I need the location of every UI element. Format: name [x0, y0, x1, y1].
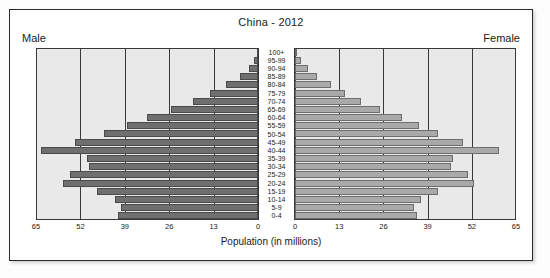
bar-female-100+: [295, 49, 297, 56]
bar-female-35-39: [295, 155, 453, 162]
bar-female-15-19: [295, 188, 438, 195]
bar-male-45-49: [75, 139, 258, 146]
age-label-100+: 100+: [259, 49, 294, 56]
chart-card: China - 2012 Male Female 100+95-9990-948…: [9, 9, 533, 261]
age-label-25-29: 25-29: [259, 171, 294, 178]
bar-female-50-54: [295, 130, 438, 137]
bar-male-10-14: [115, 196, 258, 203]
age-label-5-9: 5-9: [259, 204, 294, 211]
age-label-15-19: 15-19: [259, 188, 294, 195]
xtick-female-65: 65: [512, 222, 520, 231]
bar-male-70-74: [193, 98, 258, 105]
bar-female-95-99: [295, 57, 301, 64]
bar-male-50-54: [104, 130, 258, 137]
xtick-male-52: 52: [76, 222, 84, 231]
age-label-90-94: 90-94: [259, 65, 294, 72]
bar-female-45-49: [295, 139, 463, 146]
bar-male-90-94: [249, 65, 258, 72]
bar-female-90-94: [295, 65, 308, 72]
age-label-45-49: 45-49: [259, 139, 294, 146]
bar-male-35-39: [87, 155, 258, 162]
bar-female-30-34: [295, 163, 451, 170]
age-group-axis: 100+95-9990-9485-8980-8475-7970-7465-696…: [258, 48, 295, 220]
xtick-female-39: 39: [423, 222, 431, 231]
chart-title: China - 2012: [10, 16, 532, 28]
bar-female-85-89: [295, 73, 317, 80]
chart-page: China - 2012 Male Female 100+95-9990-948…: [0, 0, 550, 278]
age-label-55-59: 55-59: [259, 122, 294, 129]
bar-female-20-24: [295, 180, 474, 187]
xtick-male-26: 26: [165, 222, 173, 231]
age-label-65-69: 65-69: [259, 106, 294, 113]
bar-male-80-84: [226, 81, 258, 88]
xtick-male-65: 65: [32, 222, 40, 231]
plot-area: 100+95-9990-9485-8980-8475-7970-7465-696…: [36, 48, 516, 220]
age-label-35-39: 35-39: [259, 155, 294, 162]
age-label-30-34: 30-34: [259, 163, 294, 170]
age-label-10-14: 10-14: [259, 196, 294, 203]
age-label-50-54: 50-54: [259, 131, 294, 138]
xtick-male-13: 13: [209, 222, 217, 231]
bar-female-5-9: [295, 204, 414, 211]
bar-male-5-9: [121, 204, 258, 211]
xtick-female-26: 26: [379, 222, 387, 231]
bar-male-40-44: [41, 147, 258, 154]
bar-male-55-59: [127, 122, 258, 129]
bar-female-25-29: [295, 171, 468, 178]
x-axis-title: Population (in millions): [10, 236, 532, 247]
age-label-20-24: 20-24: [259, 180, 294, 187]
bar-male-75-79: [210, 90, 258, 97]
bar-male-30-34: [89, 163, 258, 170]
xtick-female-0: 0: [293, 222, 297, 231]
age-label-60-64: 60-64: [259, 114, 294, 121]
bar-female-80-84: [295, 81, 331, 88]
bar-male-15-19: [97, 188, 258, 195]
bar-female-40-44: [295, 147, 499, 154]
bar-male-20-24: [63, 180, 258, 187]
x-axis-ticks: 6552392613001326395265: [36, 222, 516, 234]
xtick-male-39: 39: [121, 222, 129, 231]
bar-male-85-89: [240, 73, 258, 80]
age-label-40-44: 40-44: [259, 147, 294, 154]
age-label-0-4: 0-4: [259, 212, 294, 219]
bar-male-25-29: [70, 171, 258, 178]
xtick-male-0: 0: [256, 222, 260, 231]
age-label-95-99: 95-99: [259, 57, 294, 64]
xtick-female-52: 52: [468, 222, 476, 231]
bar-female-55-59: [295, 122, 419, 129]
bar-female-0-4: [295, 212, 417, 219]
bar-female-70-74: [295, 98, 361, 105]
age-label-75-79: 75-79: [259, 90, 294, 97]
bar-female-10-14: [295, 196, 421, 203]
age-label-70-74: 70-74: [259, 98, 294, 105]
male-axis-label: Male: [22, 32, 46, 44]
age-label-85-89: 85-89: [259, 73, 294, 80]
bar-male-60-64: [147, 114, 258, 121]
age-label-80-84: 80-84: [259, 81, 294, 88]
bar-female-65-69: [295, 106, 380, 113]
xtick-female-13: 13: [335, 222, 343, 231]
bar-female-75-79: [295, 90, 345, 97]
bar-female-60-64: [295, 114, 402, 121]
bar-male-0-4: [118, 212, 258, 219]
female-axis-label: Female: [483, 32, 520, 44]
bar-male-65-69: [171, 106, 258, 113]
